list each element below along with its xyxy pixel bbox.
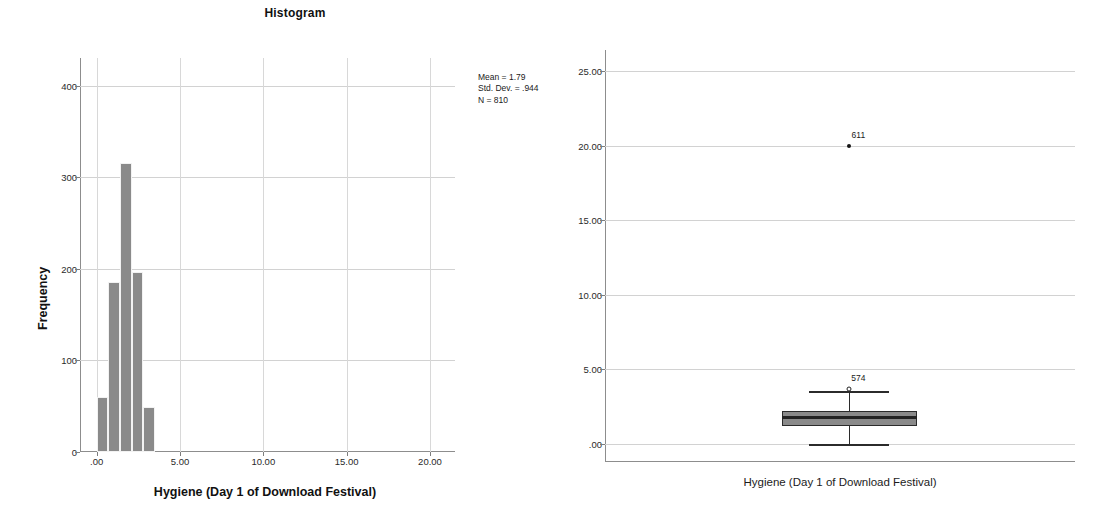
- boxplot-panel: Hygiene (Day 1 of Download Festival) .00…: [560, 0, 1115, 519]
- histogram-y-axis-title: Frequency: [36, 267, 50, 330]
- stats-n: N = 810: [478, 95, 539, 106]
- histogram-gridline: [430, 58, 431, 452]
- histogram-gridline: [263, 58, 264, 452]
- histogram-x-tick-label: .00: [90, 456, 103, 467]
- boxplot-y-tick-label: 10.00: [578, 289, 602, 300]
- boxplot-y-tick-mark: [600, 295, 605, 296]
- boxplot-gridline: [605, 369, 1075, 370]
- histogram-x-tick-mark: [430, 452, 431, 456]
- boxplot-outlier-label: 574: [851, 373, 865, 383]
- boxplot-outlier-circle: [847, 386, 852, 391]
- boxplot-gridline: [605, 71, 1075, 72]
- boxplot-whisker-cap-lower: [809, 444, 889, 446]
- histogram-plot-area: 0100200300400 .005.0010.0015.0020.00: [80, 58, 455, 452]
- boxplot-gridline: [605, 295, 1075, 296]
- histogram-x-tick-mark: [180, 452, 181, 456]
- histogram-stats-annotation: Mean = 1.79 Std. Dev. = .944 N = 810: [478, 72, 539, 106]
- boxplot-outlier-label: 611: [852, 130, 866, 140]
- statistics-figure: Histogram Frequency Hygiene (Day 1 of Do…: [0, 0, 1115, 519]
- histogram-x-tick-mark: [347, 452, 348, 456]
- boxplot-outlier-dot: [847, 144, 851, 148]
- boxplot-y-tick-label: 25.00: [578, 65, 602, 76]
- boxplot-whisker-lower: [849, 426, 851, 444]
- histogram-bar: [108, 282, 120, 452]
- boxplot-y-tick-mark: [600, 369, 605, 370]
- histogram-gridline: [347, 58, 348, 452]
- boxplot-whisker-upper: [849, 391, 851, 411]
- histogram-gridline: [80, 86, 455, 87]
- boxplot-y-tick-mark: [600, 146, 605, 147]
- boxplot-axis-line-x: [605, 461, 1075, 462]
- histogram-y-tick-mark: [75, 452, 80, 453]
- boxplot-x-axis-title: Hygiene (Day 1 of Download Festival): [620, 476, 1060, 488]
- boxplot-y-tick-label: 20.00: [578, 140, 602, 151]
- histogram-x-tick-label: 20.00: [418, 456, 442, 467]
- histogram-gridline: [80, 269, 455, 270]
- boxplot-median-line: [782, 416, 917, 419]
- histogram-gridline: [97, 58, 98, 452]
- histogram-y-tick-mark: [75, 360, 80, 361]
- stats-mean: Mean = 1.79: [478, 72, 539, 83]
- boxplot-y-tick-mark: [600, 71, 605, 72]
- histogram-bar: [97, 397, 109, 452]
- histogram-gridline: [180, 58, 181, 452]
- boxplot-y-tick-mark: [600, 220, 605, 221]
- histogram-x-axis-title: Hygiene (Day 1 of Download Festival): [70, 485, 460, 499]
- histogram-gridline: [80, 177, 455, 178]
- boxplot-plot-area: .005.0010.0015.0020.0025.00 611574: [605, 50, 1075, 462]
- histogram-panel: Histogram Frequency Hygiene (Day 1 of Do…: [0, 0, 560, 519]
- histogram-x-tick-mark: [263, 452, 264, 456]
- histogram-x-tick-label: 5.00: [171, 456, 190, 467]
- histogram-x-tick-mark: [97, 452, 98, 456]
- stats-std-dev: Std. Dev. = .944: [478, 83, 539, 94]
- boxplot-gridline: [605, 220, 1075, 221]
- histogram-y-tick-mark: [75, 269, 80, 270]
- histogram-bar: [132, 272, 144, 453]
- histogram-x-tick-label: 15.00: [335, 456, 359, 467]
- histogram-x-tick-label: 10.00: [251, 456, 275, 467]
- boxplot-axis-line-y: [605, 50, 606, 462]
- histogram-bar: [120, 163, 132, 453]
- histogram-title: Histogram: [215, 6, 375, 20]
- histogram-axis-line-y: [80, 58, 81, 452]
- histogram-bar: [143, 407, 155, 452]
- histogram-y-tick-mark: [75, 177, 80, 178]
- boxplot-y-tick-mark: [600, 444, 605, 445]
- boxplot-gridline: [605, 146, 1075, 147]
- boxplot-y-tick-label: 15.00: [578, 215, 602, 226]
- histogram-y-tick-mark: [75, 86, 80, 87]
